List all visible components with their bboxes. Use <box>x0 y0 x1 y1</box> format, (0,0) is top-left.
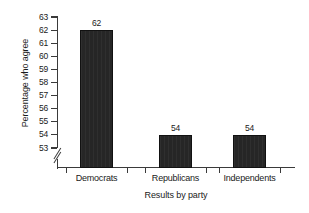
bar-value-label: 54 <box>230 123 270 133</box>
x-axis-tick <box>219 168 220 173</box>
y-axis-line <box>57 16 58 148</box>
x-axis-tick <box>280 168 281 173</box>
x-axis-tick <box>127 168 128 173</box>
y-axis-tick <box>51 56 57 57</box>
y-axis-tick <box>51 30 57 31</box>
y-axis-tick-label: 59 <box>18 64 48 74</box>
axis-break-icon <box>49 147 67 163</box>
y-axis-tick <box>51 43 57 44</box>
y-axis-tick-label: 53 <box>18 143 48 153</box>
y-axis-tick-label: 58 <box>18 77 48 87</box>
y-axis-tick <box>51 147 57 148</box>
y-axis-tick-label: 61 <box>18 38 48 48</box>
y-axis-tick-label: 56 <box>18 103 48 113</box>
y-axis-tick <box>51 134 57 135</box>
x-axis-tick <box>145 168 146 173</box>
y-axis-tick <box>51 69 57 70</box>
y-axis-tick-label: 63 <box>18 12 48 22</box>
bar-value-label: 54 <box>156 123 196 133</box>
bar-republicans <box>159 135 192 168</box>
y-axis-tick-label: 62 <box>18 25 48 35</box>
bar-democrats <box>80 30 113 168</box>
x-axis-category-label: Independents <box>205 173 295 183</box>
bar-chart: Percentage who agree 6362616059585756555… <box>0 0 309 213</box>
y-axis-tick <box>51 121 57 122</box>
y-axis-tick <box>51 16 57 17</box>
bar-independents <box>233 135 266 168</box>
y-axis-tick-label: 57 <box>18 90 48 100</box>
y-axis-tick <box>51 82 57 83</box>
x-axis-tick <box>66 168 67 173</box>
x-axis-title: Results by party <box>57 190 295 200</box>
bar-value-label: 62 <box>77 18 117 28</box>
y-axis-tick <box>51 95 57 96</box>
x-axis-category-label: Democrats <box>52 173 142 183</box>
y-axis-tick-label: 55 <box>18 116 48 126</box>
y-axis-tick-label: 60 <box>18 51 48 61</box>
y-axis-tick-label: 54 <box>18 129 48 139</box>
y-axis-tick <box>51 108 57 109</box>
